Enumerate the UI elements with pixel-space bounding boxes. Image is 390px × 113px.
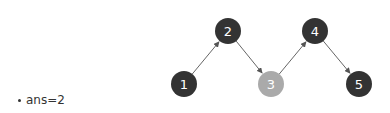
node-label: 4 [311, 24, 319, 39]
node-1: 1 [171, 71, 197, 97]
edge-3-4 [279, 42, 306, 74]
node-3: 3 [258, 71, 284, 97]
node-label: 1 [180, 77, 188, 92]
node-label: 5 [355, 77, 363, 92]
node-label: 2 [224, 24, 232, 39]
edge-1-2 [192, 42, 219, 74]
bullet-icon [18, 99, 21, 102]
edge-2-3 [236, 41, 262, 73]
edges [192, 41, 350, 74]
answer-text: ans=2 [26, 93, 65, 107]
node-5: 5 [346, 71, 372, 97]
answer-caption: ans=2 [18, 93, 65, 107]
node-4: 4 [302, 18, 328, 44]
node-label: 3 [267, 77, 275, 92]
edge-4-5 [323, 41, 350, 73]
nodes: 12345 [171, 18, 372, 97]
node-2: 2 [215, 18, 241, 44]
